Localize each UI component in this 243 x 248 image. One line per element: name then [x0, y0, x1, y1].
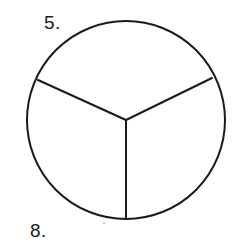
radius-upper-left-line [38, 80, 126, 120]
question-number-5: 5. [44, 13, 61, 32]
scan-speck [103, 222, 105, 224]
circle-thirds-figure [0, 0, 243, 248]
radius-upper-right-line [126, 78, 212, 120]
worksheet-figure-page: 5. 8. [0, 0, 243, 248]
question-number-8: 8. [30, 221, 47, 240]
